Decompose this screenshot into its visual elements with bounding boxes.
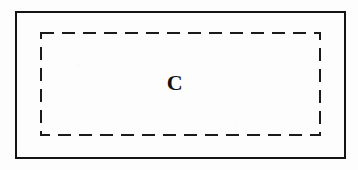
region-label-c: C (0, 70, 354, 96)
figure-canvas: C (0, 0, 358, 170)
